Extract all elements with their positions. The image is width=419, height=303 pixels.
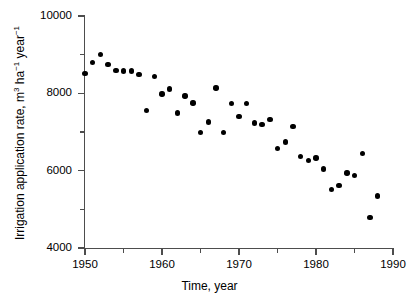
- data-point: [90, 60, 95, 65]
- data-point: [206, 119, 211, 124]
- plot-area: [85, 16, 393, 248]
- data-point: [313, 155, 318, 160]
- x-tick-label: 1950: [59, 259, 111, 271]
- data-point: [182, 93, 187, 98]
- data-point: [136, 72, 141, 77]
- x-tick-minor: [277, 248, 278, 253]
- data-point: [329, 187, 334, 192]
- data-point: [236, 114, 241, 119]
- x-tick-major: [315, 248, 316, 255]
- data-point: [175, 110, 180, 115]
- x-tick-label: 1970: [213, 259, 265, 271]
- x-tick-minor: [354, 248, 355, 253]
- data-point: [190, 100, 195, 105]
- data-point: [213, 85, 218, 90]
- chart-figure: 40006000800010000 19501960197019801990 I…: [0, 0, 419, 303]
- x-tick-major: [84, 248, 85, 255]
- x-tick-major: [238, 248, 239, 255]
- y-tick-label: 8000: [28, 87, 72, 99]
- data-point: [290, 124, 295, 129]
- data-point: [367, 215, 372, 220]
- x-tick-major: [161, 248, 162, 255]
- x-tick-minor: [200, 248, 201, 253]
- data-point: [129, 68, 134, 73]
- y-tick-major: [78, 170, 85, 171]
- y-tick-major: [78, 93, 85, 94]
- data-point: [221, 130, 226, 135]
- data-point: [344, 170, 349, 175]
- y-axis-title-container: Irrigation application rate, m3 ha−1 yea…: [10, 8, 28, 258]
- data-point: [375, 193, 380, 198]
- y-tick-label: 10000: [28, 10, 72, 22]
- data-point: [252, 120, 257, 125]
- data-point: [159, 91, 164, 96]
- data-point: [229, 101, 234, 106]
- x-tick-minor: [123, 248, 124, 253]
- data-point: [283, 139, 288, 144]
- data-point: [121, 68, 126, 73]
- x-tick-major: [392, 248, 393, 255]
- data-point: [144, 108, 149, 113]
- data-point: [198, 130, 203, 135]
- data-point: [360, 151, 365, 156]
- data-point: [113, 68, 118, 73]
- data-point: [321, 166, 326, 171]
- data-point: [336, 183, 341, 188]
- x-axis-title: Time, year: [0, 279, 419, 293]
- y-tick-major: [78, 15, 85, 16]
- data-point: [259, 122, 264, 127]
- data-point: [152, 74, 157, 79]
- data-point: [306, 158, 311, 163]
- y-tick-label: 6000: [28, 165, 72, 177]
- x-tick-label: 1960: [136, 259, 188, 271]
- data-point: [352, 173, 357, 178]
- data-point: [98, 52, 103, 57]
- data-point: [82, 71, 87, 76]
- data-point: [105, 62, 110, 67]
- y-tick-label: 4000: [28, 242, 72, 254]
- y-axis-title: Irrigation application rate, m3 ha−1 yea…: [13, 26, 27, 240]
- data-point: [167, 86, 172, 91]
- data-point: [244, 101, 249, 106]
- x-tick-label: 1980: [290, 259, 342, 271]
- data-point: [267, 117, 272, 122]
- data-point: [298, 154, 303, 159]
- x-tick-label: 1990: [367, 259, 419, 271]
- data-point: [275, 146, 280, 151]
